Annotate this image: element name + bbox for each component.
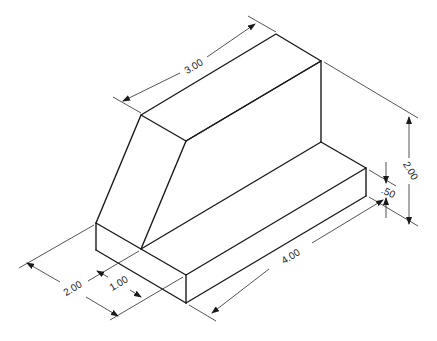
sloped-face-left-edge (96, 115, 141, 223)
dimension-line (207, 24, 255, 57)
dimension-line (97, 271, 108, 277)
dimension-line (27, 263, 60, 282)
dimension-overall-height: 2.00 (324, 62, 421, 226)
extension-line (189, 305, 216, 321)
extension-line (324, 62, 418, 118)
dimension-line (130, 290, 141, 297)
dimension-overall-length: 4.00 (189, 200, 383, 321)
dimension-label-overall-height: 2.00 (401, 159, 420, 182)
base-top-front-edge (186, 168, 366, 275)
dimension-label-top-length: 3.00 (182, 56, 205, 76)
upright-base-junction-edge (141, 142, 321, 249)
base-top-right-edge (321, 142, 366, 168)
upright-top-face (141, 34, 321, 141)
dimension-line (86, 297, 118, 316)
dimension-upright-depth: 1.00 (88, 251, 141, 297)
dimension-label-upright-depth: 1.00 (107, 273, 130, 293)
extension-line (248, 16, 276, 32)
upright-front-top-edge (186, 61, 321, 141)
base-bottom-front-edge (186, 196, 366, 303)
extension-line (88, 251, 139, 281)
dimension-top-length: 3.00 (113, 16, 276, 113)
extension-line (19, 225, 94, 268)
dimension-label-overall-length: 4.00 (279, 246, 302, 266)
sloped-face-right-edge (141, 141, 186, 249)
part-geometry (96, 34, 366, 303)
isometric-part-drawing: 3.00 2.00 .50 4.00 2.00 1.00 (0, 0, 437, 341)
dimension-label-overall-depth: 2.00 (61, 278, 84, 298)
extension-line (369, 170, 396, 186)
dimension-label-base-height: .50 (380, 184, 398, 200)
base-bottom-left-edge (96, 250, 186, 303)
extension-line (369, 197, 418, 226)
dimension-line (212, 269, 269, 313)
dimension-base-height: .50 (369, 162, 397, 218)
